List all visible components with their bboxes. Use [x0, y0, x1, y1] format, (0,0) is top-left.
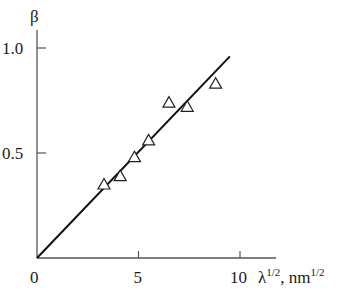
x-tick-label: 10 — [230, 268, 247, 287]
triangle-marker — [210, 78, 222, 89]
chart: 05100.51.0βλ1/2, nm1/2 — [0, 0, 339, 294]
y-tick-label: 1.0 — [2, 39, 23, 58]
triangle-marker — [163, 97, 175, 108]
axes — [37, 30, 276, 258]
data-markers — [98, 78, 222, 189]
x-tick-label: 0 — [30, 268, 39, 287]
y-tick-label: 0.5 — [2, 144, 23, 163]
y-axis-title: β — [30, 7, 39, 26]
x-tick-label: 5 — [134, 268, 143, 287]
x-axis-title: λ1/2, nm1/2 — [258, 266, 325, 287]
